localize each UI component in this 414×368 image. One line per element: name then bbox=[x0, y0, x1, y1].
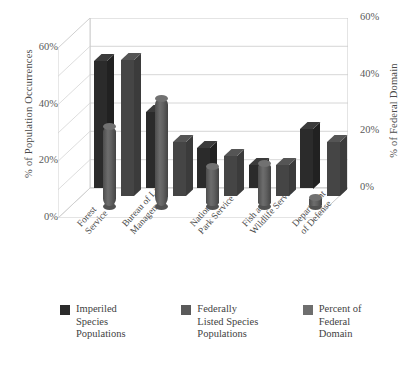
cylinder-body bbox=[155, 98, 168, 206]
legend-label-line: Domain bbox=[319, 328, 362, 341]
bar-2-5 bbox=[309, 198, 322, 207]
bar-3-5 bbox=[327, 142, 340, 196]
prism-front-face bbox=[173, 142, 186, 196]
legend-swatch-icon bbox=[303, 305, 313, 315]
prism-front-face bbox=[327, 142, 340, 196]
bar-3-3 bbox=[224, 156, 237, 196]
prism-side-face bbox=[186, 136, 193, 196]
prism-side-face bbox=[340, 136, 347, 196]
legend: ImperiledSpeciesPopulationsFederallyList… bbox=[60, 303, 400, 351]
bar-3-1 bbox=[121, 60, 134, 196]
legend-label-line: Percent of bbox=[319, 303, 362, 316]
cylinder-body bbox=[258, 164, 271, 207]
legend-label: ImperiledSpeciesPopulations bbox=[76, 303, 126, 341]
legend-label-line: Populations bbox=[197, 328, 258, 341]
prism-front-face bbox=[276, 165, 289, 196]
legend-label: FederallyListed SpeciesPopulations bbox=[197, 303, 258, 341]
prism-side-face bbox=[313, 122, 320, 188]
cylinder-top-cap bbox=[258, 160, 271, 167]
legend-swatch-icon bbox=[181, 305, 191, 315]
legend-item-1[interactable]: ImperiledSpeciesPopulations bbox=[60, 303, 157, 341]
legend-item-3[interactable]: Percent ofFederalDomain bbox=[303, 303, 400, 341]
legend-label-line: Federally bbox=[197, 303, 258, 316]
bar-2-2 bbox=[155, 98, 168, 206]
bar-3-2 bbox=[173, 142, 186, 196]
prism-front-face bbox=[224, 156, 237, 196]
legend-item-2[interactable]: FederallyListed SpeciesPopulations bbox=[181, 303, 278, 341]
bar-2-1 bbox=[103, 127, 116, 206]
legend-label-line: Species bbox=[76, 316, 126, 329]
prism-front-face bbox=[300, 129, 313, 189]
legend-label-line: Populations bbox=[76, 328, 126, 341]
legend-label-line: Listed Species bbox=[197, 316, 258, 329]
bar-2-3 bbox=[206, 166, 219, 206]
legend-label: Percent ofFederalDomain bbox=[319, 303, 362, 341]
legend-swatch-icon bbox=[60, 305, 70, 315]
bar-3-4 bbox=[276, 165, 289, 196]
legend-label-line: Imperiled bbox=[76, 303, 126, 316]
cylinder-body bbox=[206, 166, 219, 206]
prism-front-face bbox=[121, 60, 134, 196]
bar-2-4 bbox=[258, 164, 271, 207]
cylinder-top-cap bbox=[155, 95, 168, 102]
prism-side-face bbox=[134, 53, 141, 196]
bar-1-5 bbox=[300, 129, 313, 189]
prism-side-face bbox=[237, 150, 244, 196]
cylinder-top-cap bbox=[206, 163, 219, 170]
chart-container: % of Population Occurrences % of Federal… bbox=[0, 0, 414, 368]
cylinder-body bbox=[103, 127, 116, 206]
legend-label-line: Federal bbox=[319, 316, 362, 329]
